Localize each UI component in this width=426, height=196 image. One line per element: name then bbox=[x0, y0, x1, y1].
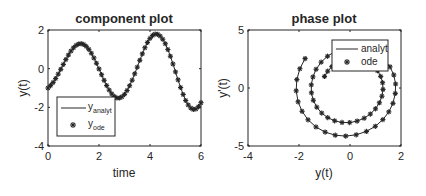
asterisk-marker bbox=[393, 91, 398, 96]
asterisk-marker bbox=[311, 98, 316, 103]
asterisk-marker bbox=[127, 83, 132, 88]
asterisk-marker bbox=[294, 88, 299, 93]
asterisk-marker bbox=[102, 78, 107, 83]
asterisk-marker bbox=[51, 80, 56, 85]
y-tick-label: 2 bbox=[38, 24, 44, 36]
asterisk-marker bbox=[99, 72, 104, 77]
y-tick-label: 0 bbox=[38, 63, 44, 75]
figure: component plot 0246-4-202 time y(t) yana… bbox=[0, 0, 426, 196]
asterisk-marker bbox=[299, 109, 304, 114]
asterisk-marker bbox=[313, 67, 318, 72]
asterisk-marker bbox=[160, 37, 165, 42]
asterisk-marker bbox=[173, 69, 178, 74]
component-plot-title: component plot bbox=[75, 11, 173, 26]
phase-plot-title: phase plot bbox=[291, 11, 357, 26]
asterisk-marker bbox=[325, 69, 330, 74]
phase-plot-legend: analyt ode bbox=[332, 40, 388, 71]
asterisk-marker bbox=[362, 116, 367, 121]
asterisk-marker bbox=[373, 124, 378, 129]
asterisk-marker bbox=[379, 94, 384, 99]
asterisk-marker bbox=[343, 133, 348, 138]
asterisk-marker bbox=[145, 40, 150, 45]
asterisk-marker bbox=[319, 110, 324, 115]
asterisk-marker bbox=[70, 122, 76, 128]
asterisk-marker bbox=[96, 66, 101, 71]
asterisk-marker bbox=[183, 98, 188, 103]
asterisk-marker bbox=[310, 74, 315, 79]
component-plot: component plot 0246-4-202 time y(t) yana… bbox=[16, 11, 204, 180]
y-tick-label: 5 bbox=[238, 24, 244, 36]
asterisk-marker bbox=[170, 61, 175, 66]
x-tick-label: -4 bbox=[243, 150, 253, 162]
asterisk-marker bbox=[313, 124, 318, 129]
asterisk-marker bbox=[107, 88, 112, 93]
asterisk-marker bbox=[89, 51, 94, 56]
asterisk-marker bbox=[295, 99, 300, 104]
asterisk-marker bbox=[319, 60, 324, 65]
x-tick-label: 2 bbox=[96, 150, 102, 162]
x-tick-label: 4 bbox=[147, 150, 153, 162]
asterisk-marker bbox=[380, 117, 385, 122]
asterisk-marker bbox=[142, 45, 147, 50]
asterisk-marker bbox=[61, 62, 66, 67]
asterisk-marker bbox=[140, 51, 145, 56]
asterisk-marker bbox=[391, 72, 396, 77]
y-tick-label: -2 bbox=[34, 101, 44, 113]
asterisk-marker bbox=[181, 92, 186, 97]
legend-label-analyt: analyt bbox=[361, 43, 388, 54]
asterisk-marker bbox=[390, 101, 395, 106]
asterisk-marker bbox=[339, 120, 344, 125]
asterisk-marker bbox=[393, 81, 398, 86]
asterisk-marker bbox=[58, 67, 63, 72]
asterisk-marker bbox=[373, 106, 378, 111]
x-tick-label: 0 bbox=[45, 150, 51, 162]
asterisk-marker bbox=[344, 59, 350, 65]
asterisk-marker bbox=[309, 90, 314, 95]
legend-box bbox=[57, 97, 115, 136]
asterisk-marker bbox=[386, 109, 391, 114]
asterisk-marker bbox=[322, 74, 327, 79]
asterisk-marker bbox=[294, 77, 299, 82]
component-plot-xlabel: time bbox=[113, 166, 136, 180]
y-tick-label: -4 bbox=[34, 140, 44, 152]
asterisk-marker bbox=[325, 54, 330, 59]
asterisk-marker bbox=[137, 58, 142, 63]
asterisk-marker bbox=[380, 80, 385, 85]
phase-plot-xlabel: y(t) bbox=[315, 166, 332, 180]
y-tick-label: 0 bbox=[238, 82, 244, 94]
asterisk-marker bbox=[380, 87, 385, 92]
asterisk-marker bbox=[178, 85, 183, 90]
asterisk-marker bbox=[354, 132, 359, 137]
asterisk-marker bbox=[130, 78, 135, 83]
asterisk-marker bbox=[368, 111, 373, 116]
x-tick-label: -2 bbox=[294, 150, 304, 162]
asterisk-marker bbox=[333, 133, 338, 138]
asterisk-marker bbox=[175, 77, 180, 82]
x-tick-label: 2 bbox=[398, 150, 404, 162]
asterisk-marker bbox=[196, 104, 201, 109]
asterisk-marker bbox=[325, 115, 330, 120]
asterisk-marker bbox=[364, 129, 369, 134]
phase-plot-ylabel: y'(t) bbox=[216, 78, 230, 98]
asterisk-marker bbox=[135, 65, 140, 70]
asterisk-marker bbox=[163, 41, 168, 46]
asterisk-marker bbox=[91, 55, 96, 60]
asterisk-marker-icon bbox=[344, 59, 350, 65]
asterisk-marker bbox=[309, 82, 314, 87]
component-plot-ylabel: y(t) bbox=[16, 79, 30, 96]
x-tick-label: 0 bbox=[347, 150, 353, 162]
asterisk-marker bbox=[347, 120, 352, 125]
asterisk-marker bbox=[122, 92, 127, 97]
phase-plot: phase plot -4-202-505 y(t) y'(t) analyt … bbox=[216, 11, 404, 180]
asterisk-marker bbox=[378, 74, 383, 79]
y-tick-label: -5 bbox=[234, 140, 244, 152]
asterisk-marker bbox=[124, 88, 129, 93]
asterisk-marker bbox=[168, 54, 173, 59]
component-plot-legend: yanalyt yode bbox=[57, 97, 115, 136]
asterisk-marker bbox=[305, 117, 310, 122]
legend-label-ode: ode bbox=[361, 56, 378, 67]
asterisk-marker bbox=[323, 129, 328, 134]
asterisk-marker bbox=[377, 100, 382, 105]
asterisk-marker bbox=[132, 71, 137, 76]
asterisk-marker bbox=[104, 83, 109, 88]
